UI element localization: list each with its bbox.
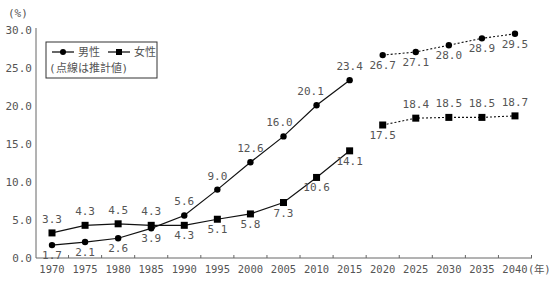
data-label: 17.5 bbox=[369, 129, 396, 142]
circle-marker-icon bbox=[413, 49, 419, 55]
square-marker-icon bbox=[280, 199, 287, 206]
square-marker-icon bbox=[181, 222, 188, 229]
square-marker-icon bbox=[82, 222, 89, 229]
data-label: 5.6 bbox=[174, 195, 194, 208]
data-label: 27.1 bbox=[403, 56, 430, 69]
circle-marker-icon bbox=[181, 212, 187, 218]
data-label: 12.6 bbox=[237, 142, 264, 155]
legend-female-label: 女性 bbox=[134, 45, 156, 59]
data-label: 2.6 bbox=[108, 242, 128, 255]
x-tick-label: 2025 bbox=[403, 263, 428, 275]
data-label: 18.4 bbox=[403, 98, 430, 111]
circle-marker-icon bbox=[313, 102, 319, 108]
data-label: 18.5 bbox=[469, 97, 496, 110]
square-marker-icon bbox=[148, 222, 155, 229]
square-marker-icon bbox=[511, 112, 518, 119]
circle-marker-icon bbox=[247, 159, 253, 165]
data-label: 4.3 bbox=[174, 229, 194, 242]
x-tick-label: 2035 bbox=[469, 263, 494, 275]
data-label: 7.3 bbox=[274, 207, 294, 220]
circle-marker-icon bbox=[115, 235, 121, 241]
data-label: 20.1 bbox=[297, 85, 324, 98]
data-label: 28.0 bbox=[436, 49, 463, 62]
legend-note: (点線は推計値) bbox=[49, 61, 128, 75]
data-label: 18.5 bbox=[436, 97, 463, 110]
y-tick-label: 30.0 bbox=[6, 24, 33, 37]
circle-marker-icon bbox=[214, 186, 220, 192]
y-axis-unit: (%) bbox=[8, 7, 28, 20]
x-tick-label: 2005 bbox=[271, 263, 296, 275]
square-marker-icon bbox=[445, 114, 452, 121]
square-marker-icon bbox=[115, 220, 122, 227]
data-label: 18.7 bbox=[502, 96, 529, 109]
legend: 男性 女性 (点線は推計値) bbox=[46, 42, 157, 78]
square-marker-icon bbox=[379, 122, 386, 129]
y-tick-label: 15.0 bbox=[6, 138, 33, 151]
square-marker-icon bbox=[412, 115, 419, 122]
data-label: 4.3 bbox=[141, 205, 161, 218]
x-tick-label: 1975 bbox=[72, 263, 97, 275]
x-tick-label: 1985 bbox=[139, 263, 164, 275]
x-tick-label: 2040 bbox=[502, 263, 527, 275]
data-label: 16.0 bbox=[266, 116, 293, 129]
legend-female-marker-icon bbox=[116, 49, 122, 55]
male-actual-line bbox=[52, 80, 350, 245]
circle-marker-icon bbox=[512, 31, 518, 37]
x-tick-label: 2030 bbox=[436, 263, 461, 275]
square-marker-icon bbox=[346, 147, 353, 154]
data-label: 4.3 bbox=[75, 205, 95, 218]
data-label: 3.9 bbox=[141, 232, 161, 245]
circle-marker-icon bbox=[49, 242, 55, 248]
data-label: 2.1 bbox=[75, 246, 95, 259]
data-label: 23.4 bbox=[336, 60, 363, 73]
legend-male-marker-icon bbox=[60, 49, 66, 55]
data-label: 14.1 bbox=[336, 155, 363, 168]
square-marker-icon bbox=[214, 216, 221, 223]
x-tick-label: 2000 bbox=[238, 263, 263, 275]
x-axis-unit: (年) bbox=[528, 263, 551, 275]
data-label: 5.8 bbox=[240, 218, 260, 231]
data-label: 4.5 bbox=[108, 204, 128, 217]
y-tick-label: 5.0 bbox=[12, 214, 32, 227]
data-label: 28.9 bbox=[469, 42, 496, 55]
x-tick-label: 2015 bbox=[337, 263, 362, 275]
x-tick-label: 2010 bbox=[304, 263, 329, 275]
circle-marker-icon bbox=[446, 42, 452, 48]
x-tick-label: 1970 bbox=[39, 263, 64, 275]
circle-marker-icon bbox=[82, 239, 88, 245]
y-tick-label: 10.0 bbox=[6, 176, 33, 189]
line-chart: 0.05.010.015.020.025.030.0(%)19701975198… bbox=[0, 0, 557, 282]
y-tick-label: 25.0 bbox=[6, 62, 33, 75]
square-marker-icon bbox=[478, 114, 485, 121]
legend-male-label: 男性 bbox=[78, 45, 100, 59]
circle-marker-icon bbox=[479, 35, 485, 41]
data-label: 9.0 bbox=[207, 170, 227, 183]
chart-canvas: 0.05.010.015.020.025.030.0(%)19701975198… bbox=[0, 0, 557, 282]
y-tick-label: 20.0 bbox=[6, 100, 33, 113]
circle-marker-icon bbox=[346, 77, 352, 83]
data-label: 10.6 bbox=[303, 181, 330, 194]
x-tick-label: 2020 bbox=[370, 263, 395, 275]
y-tick-label: 0.0 bbox=[12, 252, 32, 265]
circle-marker-icon bbox=[280, 133, 286, 139]
square-marker-icon bbox=[313, 174, 320, 181]
data-label: 29.5 bbox=[502, 38, 529, 51]
x-tick-label: 1980 bbox=[105, 263, 130, 275]
circle-marker-icon bbox=[380, 52, 386, 58]
data-label: 5.1 bbox=[207, 223, 227, 236]
data-label: 26.7 bbox=[369, 59, 396, 72]
square-marker-icon bbox=[49, 229, 56, 236]
data-label: 1.7 bbox=[42, 249, 62, 262]
data-label: 3.3 bbox=[42, 213, 62, 226]
square-marker-icon bbox=[247, 210, 254, 217]
x-tick-label: 1990 bbox=[172, 263, 197, 275]
x-tick-label: 1995 bbox=[205, 263, 230, 275]
